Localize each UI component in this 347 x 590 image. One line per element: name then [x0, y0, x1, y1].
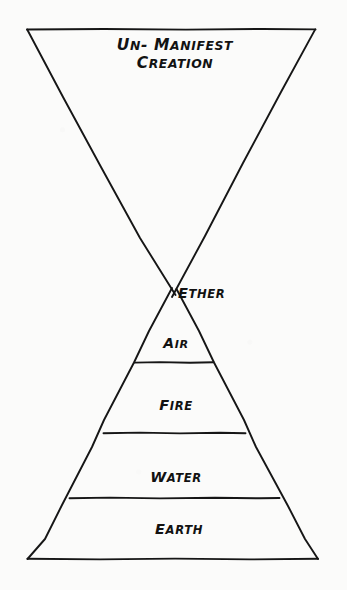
upper-region-label-line2: CREATION — [117, 54, 233, 72]
upper-region-label-line1: UN- MANIFEST — [117, 36, 233, 54]
lower-triangle-right-edge — [177, 289, 319, 559]
upper-region-label: UN- MANIFEST CREATION — [117, 36, 233, 73]
lower-triangle-base-edge — [28, 559, 319, 560]
element-label-ether: ETHER — [178, 285, 225, 302]
hourglass-figure — [0, 0, 347, 590]
divider-air-fire — [135, 362, 214, 363]
divider-fire-water — [104, 433, 246, 434]
elements-hourglass-diagram: UN- MANIFEST CREATION ETHER AIR FIRE WAT… — [0, 0, 347, 590]
divider-water-earth — [70, 498, 280, 499]
upper-triangle-top-edge — [27, 29, 316, 30]
element-label-fire: FIRE — [159, 397, 192, 414]
element-label-water: WATER — [150, 469, 202, 486]
lower-triangle-left-edge — [28, 288, 173, 559]
element-label-air: AIR — [163, 335, 188, 352]
element-label-earth: EARTH — [155, 521, 203, 538]
